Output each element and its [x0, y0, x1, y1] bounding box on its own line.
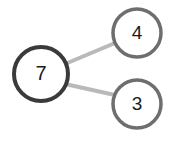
- node-child-top-label: 4: [132, 22, 143, 43]
- node-child-bottom[interactable]: 3: [113, 80, 161, 128]
- node-root[interactable]: 7: [14, 47, 68, 101]
- node-layer: 7 4 3: [14, 9, 161, 128]
- graph-canvas: 7 4 3: [0, 0, 172, 142]
- edge-root-to-child-bottom[interactable]: [65, 84, 115, 95]
- edge-root-to-child-top[interactable]: [65, 43, 115, 64]
- node-child-top[interactable]: 4: [113, 9, 161, 57]
- edge-layer: [65, 43, 115, 95]
- node-child-bottom-label: 3: [132, 93, 143, 114]
- node-root-label: 7: [35, 62, 46, 84]
- node-link-diagram: 7 4 3: [0, 0, 172, 142]
